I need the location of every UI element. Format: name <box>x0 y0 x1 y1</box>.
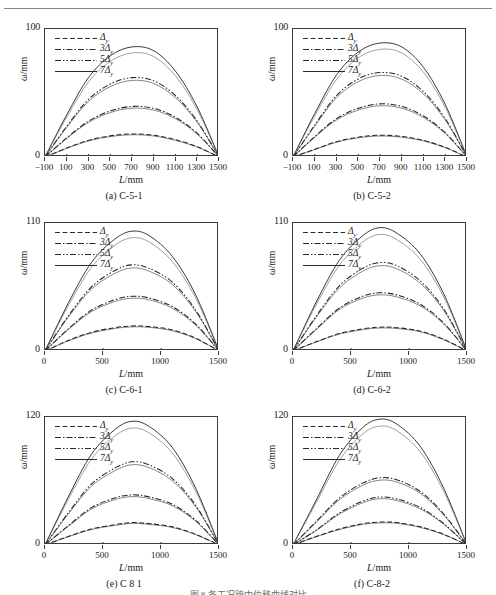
legend-item-label: 7Δy <box>100 260 113 272</box>
x-tick-label: 1500 <box>457 549 475 561</box>
legend: Δy3Δy5Δy7Δy <box>303 33 383 77</box>
legend-line-swatch <box>303 56 345 65</box>
legend-line-swatch <box>55 433 97 442</box>
figure-row-1: 1000ω/mmΔy3Δy5Δy7Δy−10010030050070090011… <box>0 14 496 208</box>
y-axis-title: ω/mm <box>267 233 277 293</box>
legend-item-4[interactable]: 7Δy <box>55 260 135 271</box>
legend-item-1[interactable]: Δy <box>55 33 135 44</box>
figure-bottom-caption: 图 8 各工况跨中位移曲线对比 <box>0 588 496 595</box>
plot-area-e: Δy3Δy5Δy7Δy <box>44 416 218 544</box>
x-axis-tick-labels: −100100300500700900110013001500 <box>0 161 248 173</box>
x-tick-label: 1000 <box>151 549 169 561</box>
x-axis-tick-labels: 050010001500 <box>248 549 496 561</box>
legend-line-swatch <box>55 239 97 248</box>
legend-item-3[interactable]: 5Δy <box>55 249 135 260</box>
x-tick-label: 700 <box>372 161 386 173</box>
legend-item-1[interactable]: Δy <box>55 421 135 432</box>
legend-item-label: 7Δy <box>348 260 361 272</box>
legend-item-2[interactable]: 3Δy <box>55 238 135 249</box>
chart-panel-a: 1000ω/mmΔy3Δy5Δy7Δy−10010030050070090011… <box>0 14 248 208</box>
x-tick-label: 700 <box>124 161 138 173</box>
x-tick-label: 300 <box>329 161 343 173</box>
x-axis-tick-labels: 050010001500 <box>0 355 248 367</box>
y-axis-min-label: 0 <box>248 538 288 548</box>
legend-item-2[interactable]: 3Δy <box>303 44 383 55</box>
legend: Δy3Δy5Δy7Δy <box>303 421 383 465</box>
x-axis-tick-labels: 050010001500 <box>0 549 248 561</box>
y-axis-title: ω/mm <box>19 39 29 99</box>
legend: Δy3Δy5Δy7Δy <box>55 227 135 271</box>
legend-line-swatch <box>55 45 97 54</box>
legend-item-2[interactable]: 3Δy <box>55 432 135 443</box>
chart-panel-c: 1100ω/mmΔy3Δy5Δy7Δy050010001500L/mm(c) C… <box>0 208 248 402</box>
x-tick-label: 1100 <box>414 161 432 173</box>
legend-item-1[interactable]: Δy <box>303 33 383 44</box>
x-tick-label: 300 <box>81 161 95 173</box>
legend-item-1[interactable]: Δy <box>303 421 383 432</box>
legend-item-3[interactable]: 5Δy <box>55 443 135 454</box>
y-axis-title: ω/mm <box>19 233 29 293</box>
x-tick-label: 1000 <box>151 355 169 367</box>
legend-item-4[interactable]: 7Δy <box>55 454 135 465</box>
x-tick-label: 1000 <box>399 355 417 367</box>
legend: Δy3Δy5Δy7Δy <box>303 227 383 271</box>
plot-area-f: Δy3Δy5Δy7Δy <box>292 416 466 544</box>
y-axis-min-label: 0 <box>0 150 40 160</box>
chart-panel-b: 1000ω/mmΔy3Δy5Δy7Δy−10010030050070090011… <box>248 14 496 208</box>
legend-line-swatch <box>303 444 345 453</box>
legend-item-1[interactable]: Δy <box>303 227 383 238</box>
x-tick-label: 1500 <box>457 355 475 367</box>
x-tick-label: 0 <box>42 355 47 367</box>
legend-item-label: 7Δy <box>100 66 113 78</box>
plot-area-a: Δy3Δy5Δy7Δy <box>44 28 218 156</box>
legend-line-swatch <box>303 67 345 76</box>
legend-line-swatch <box>55 228 97 237</box>
legend-line-swatch <box>303 239 345 248</box>
legend-line-swatch <box>303 433 345 442</box>
legend-item-3[interactable]: 5Δy <box>303 55 383 66</box>
y-axis-max-label: 120 <box>248 410 288 420</box>
legend-item-2[interactable]: 3Δy <box>303 432 383 443</box>
legend-item-4[interactable]: 7Δy <box>303 454 383 465</box>
legend-line-swatch <box>55 261 97 270</box>
y-axis-title: ω/mm <box>19 427 29 487</box>
panel-caption-d: (d) C-6-2 <box>248 384 496 395</box>
x-axis-title: L/mm <box>44 562 218 573</box>
x-tick-label: 500 <box>95 355 109 367</box>
legend-line-swatch <box>303 34 345 43</box>
x-axis-tick-labels: 050010001500 <box>248 355 496 367</box>
x-axis-tick-labels: −100100300500700900110013001500 <box>248 161 496 173</box>
figure-row-2: 1100ω/mmΔy3Δy5Δy7Δy050010001500L/mm(c) C… <box>0 208 496 402</box>
y-axis-min-label: 0 <box>248 150 288 160</box>
legend-item-label: 7Δy <box>348 66 361 78</box>
x-tick-label: 1100 <box>166 161 184 173</box>
legend-item-4[interactable]: 7Δy <box>55 66 135 77</box>
legend-item-3[interactable]: 5Δy <box>303 443 383 454</box>
x-axis-title: L/mm <box>292 174 466 185</box>
x-tick-label: 0 <box>290 355 295 367</box>
y-axis-max-label: 100 <box>0 22 40 32</box>
figure-row-3: 1200ω/mmΔy3Δy5Δy7Δy050010001500L/mm(e) C… <box>0 402 496 595</box>
x-tick-label: 1300 <box>435 161 453 173</box>
x-axis-title: L/mm <box>292 368 466 379</box>
x-tick-label: 1500 <box>457 161 475 173</box>
chart-panel-f: 1200ω/mmΔy3Δy5Δy7Δy050010001500L/mm(f) C… <box>248 402 496 595</box>
legend-item-2[interactable]: 3Δy <box>303 238 383 249</box>
legend-item-2[interactable]: 3Δy <box>55 44 135 55</box>
legend-item-4[interactable]: 7Δy <box>303 66 383 77</box>
plot-area-b: Δy3Δy5Δy7Δy <box>292 28 466 156</box>
legend-item-1[interactable]: Δy <box>55 227 135 238</box>
y-axis-min-label: 0 <box>248 344 288 354</box>
legend-item-label: 7Δy <box>100 454 113 466</box>
legend-item-3[interactable]: 5Δy <box>55 55 135 66</box>
legend-line-swatch <box>55 422 97 431</box>
x-tick-label: 1500 <box>209 549 227 561</box>
x-tick-label: 1000 <box>399 549 417 561</box>
legend: Δy3Δy5Δy7Δy <box>55 33 135 77</box>
x-tick-label: 900 <box>394 161 408 173</box>
legend-line-swatch <box>303 45 345 54</box>
legend-item-3[interactable]: 5Δy <box>303 249 383 260</box>
plot-area-d: Δy3Δy5Δy7Δy <box>292 222 466 350</box>
legend-item-4[interactable]: 7Δy <box>303 260 383 271</box>
x-tick-label: 100 <box>59 161 73 173</box>
